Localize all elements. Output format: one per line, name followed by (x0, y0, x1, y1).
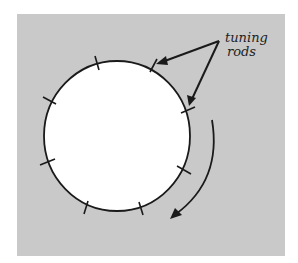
cavity-diagram: tuning rods (0, 0, 298, 263)
label-tuning: tuning (225, 30, 268, 45)
label-rods: rods (227, 44, 256, 59)
cavity-circle (44, 61, 190, 211)
